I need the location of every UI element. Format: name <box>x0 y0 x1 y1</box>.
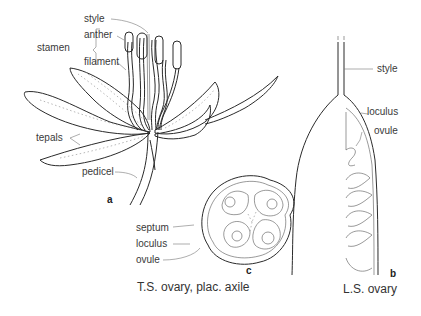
caption-ls-ovary: L.S. ovary <box>343 282 397 296</box>
label-filament: filament <box>84 56 119 68</box>
label-style-b: style <box>377 63 398 75</box>
label-ovule-b: ovule <box>374 125 398 137</box>
ls-ovary-drawing <box>292 36 378 275</box>
label-style-a: style <box>84 13 105 25</box>
label-septum: septum <box>136 222 169 234</box>
caption-ts-ovary: T.S. ovary, plac. axile <box>137 280 250 294</box>
stamens <box>125 32 181 130</box>
label-stamen: stamen <box>37 42 70 54</box>
label-anther: anther <box>84 29 112 41</box>
label-loculus-b: loculus <box>367 106 398 118</box>
panel-a-leaders <box>70 19 148 178</box>
label-ovule-c: ovule <box>136 254 160 266</box>
label-tepals: tepals <box>36 132 63 144</box>
ts-ovary-drawing <box>202 176 294 265</box>
panel-id-c: c <box>246 265 252 276</box>
panel-id-a: a <box>107 194 113 205</box>
panel-id-b: b <box>390 268 396 279</box>
flower-drawing <box>24 32 278 205</box>
label-pedicel: pedicel <box>82 166 114 178</box>
label-loculus-c: loculus <box>136 238 167 250</box>
